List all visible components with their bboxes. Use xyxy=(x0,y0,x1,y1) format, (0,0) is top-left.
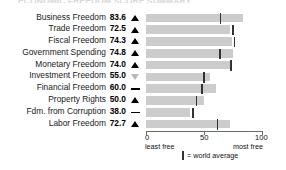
x-tick-label-0: 0 xyxy=(145,133,149,142)
world-average-tick xyxy=(219,49,221,59)
bars-plot-area xyxy=(146,12,262,130)
world-average-tick xyxy=(201,84,203,94)
bar xyxy=(146,84,216,93)
world-average-tick xyxy=(203,72,205,82)
score-value: 83.6 xyxy=(106,12,126,24)
trend-down-icon xyxy=(130,71,141,83)
category-label: Business Freedom xyxy=(36,12,106,24)
trend-up-icon xyxy=(130,118,141,130)
legend-tick-icon xyxy=(182,151,184,160)
bar xyxy=(146,37,232,46)
chart-title-cropped: ECONOMIC FREEDOM SCORE SUMMARY xyxy=(18,0,218,3)
score-value: 72.7 xyxy=(106,118,126,130)
economic-freedom-chart: ECONOMIC FREEDOM SCORE SUMMARY Business … xyxy=(0,0,286,170)
bar xyxy=(146,108,190,117)
score-value: 38.0 xyxy=(106,106,126,118)
trend-up-icon xyxy=(130,36,141,48)
x-tick-label-50: 50 xyxy=(200,133,208,142)
world-average-tick xyxy=(217,119,219,129)
world-average-tick xyxy=(232,25,234,35)
score-value: 74.0 xyxy=(106,59,126,71)
score-value: 60.0 xyxy=(106,82,126,94)
category-label: Labor Freedom xyxy=(49,118,106,130)
category-label: Financial Freedom xyxy=(37,82,106,94)
world-average-tick xyxy=(230,60,232,70)
category-label: Monetary Freedom xyxy=(35,59,106,71)
trend-up-icon xyxy=(130,12,141,24)
axis-label-most-free: most free xyxy=(233,142,263,151)
world-average-tick xyxy=(220,13,222,23)
trend-up-icon xyxy=(130,95,141,107)
axis-label-least-free: least free xyxy=(145,142,175,151)
trend-flat-icon xyxy=(130,83,141,95)
category-label: Government Spending xyxy=(22,47,106,59)
bar xyxy=(146,73,210,82)
category-label: Property Rights xyxy=(48,94,106,106)
trend-flat-icon xyxy=(130,106,141,118)
trend-up-icon xyxy=(130,47,141,59)
world-average-tick xyxy=(196,96,198,106)
score-value: 74.8 xyxy=(106,47,126,59)
bar xyxy=(146,25,230,34)
score-value: 55.0 xyxy=(106,70,126,82)
trend-up-icon xyxy=(130,59,141,71)
x-tick-label-100: 100 xyxy=(255,133,268,142)
category-label: Investment Freedom xyxy=(29,70,106,82)
category-label: Fdm. from Corruption xyxy=(26,106,106,118)
bar xyxy=(146,14,243,23)
legend-label: = world average xyxy=(187,151,238,160)
world-average-tick xyxy=(234,37,236,47)
world-average-tick xyxy=(192,108,194,118)
trend-up-icon xyxy=(130,24,141,36)
score-value: 72.5 xyxy=(106,23,126,35)
score-value: 50.0 xyxy=(106,94,126,106)
score-value: 74.3 xyxy=(106,35,126,47)
category-label: Trade Freedom xyxy=(49,23,106,35)
category-label: Fiscal Freedom xyxy=(48,35,106,47)
bar xyxy=(146,61,232,70)
